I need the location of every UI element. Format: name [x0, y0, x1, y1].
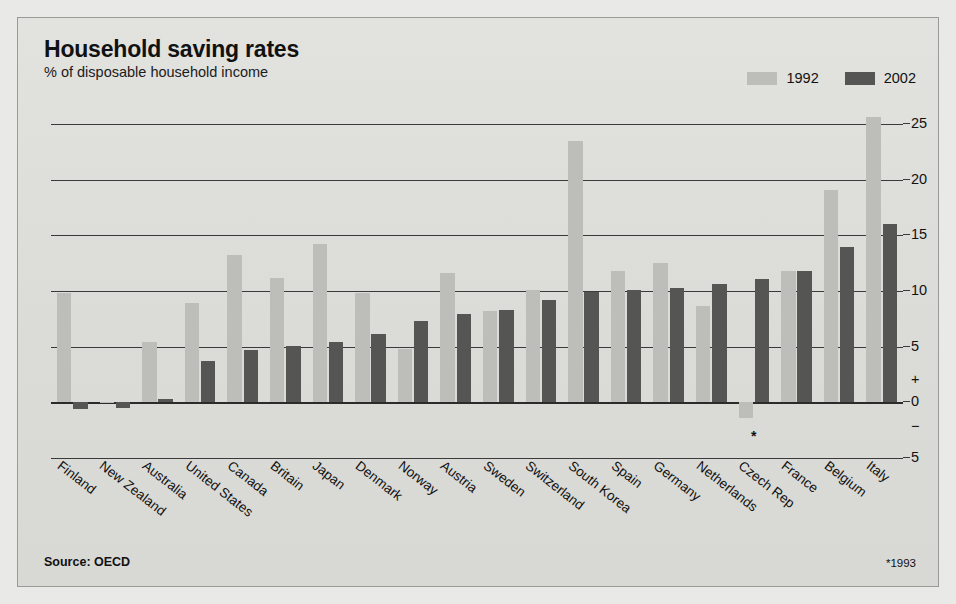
bar-1992-canada	[227, 255, 241, 402]
x-label-belgium: Belgium	[821, 458, 869, 500]
bar-group-czech-rep	[739, 113, 769, 458]
bar-1992-japan	[313, 244, 327, 402]
bar-group-france	[781, 113, 811, 458]
bar-2002-switzerland	[542, 300, 556, 402]
plot-area: 252015105+0−5 *	[51, 113, 903, 458]
bar-1992-australia	[142, 342, 156, 402]
bar-2002-new-zealand	[116, 402, 130, 408]
bar-1992-france	[781, 271, 795, 402]
bar-group-switzerland	[526, 113, 556, 458]
bar-group-canada	[227, 113, 257, 458]
bar-2002-japan	[329, 342, 343, 402]
bar-1992-south-korea	[568, 141, 582, 403]
y-tick-dash	[903, 234, 910, 235]
y-tick-dash	[903, 290, 910, 291]
bar-group-belgium	[824, 113, 854, 458]
bar-1992-austria	[440, 273, 454, 402]
chart-legend: 19922002	[747, 70, 916, 86]
y-tick-0: 0	[911, 393, 956, 409]
asterisk-annotation: *	[751, 428, 756, 444]
bar-2002-norway	[414, 321, 428, 402]
bar-1992-netherlands	[696, 306, 710, 403]
legend-label: 2002	[884, 70, 916, 86]
y-tick-+: +	[911, 371, 956, 387]
bar-group-britain	[270, 113, 300, 458]
x-label-italy: Italy	[864, 458, 893, 485]
y-tick-dash	[903, 179, 910, 180]
bar-2002-czech-rep	[755, 279, 769, 403]
bar-2002-britain	[286, 346, 300, 403]
source-label: Source: OECD	[44, 555, 130, 569]
footnote-label: *1993	[886, 557, 916, 569]
bar-group-norway	[398, 113, 428, 458]
x-label-britain: Britain	[268, 458, 307, 493]
bar-2002-sweden	[499, 310, 513, 402]
x-label-japan: Japan	[310, 458, 348, 492]
bar-1992-czech-rep	[739, 402, 753, 418]
x-label-spain: Spain	[608, 458, 644, 491]
y-tick-−: −	[911, 418, 956, 434]
y-tick-5: 5	[911, 338, 956, 354]
bar-1992-belgium	[824, 190, 838, 403]
bar-2002-south-korea	[584, 292, 598, 402]
bar-1992-finland	[57, 293, 71, 402]
y-tick-5: 5	[911, 449, 956, 465]
bar-1992-sweden	[483, 311, 497, 402]
bar-group-germany	[653, 113, 683, 458]
bar-2002-france	[797, 271, 811, 402]
legend-item-2002: 2002	[845, 70, 916, 86]
bar-2002-italy	[883, 224, 897, 402]
bar-1992-united-states	[185, 303, 199, 402]
legend-label: 1992	[786, 70, 818, 86]
bar-2002-austria	[457, 314, 471, 402]
page-subtitle: % of disposable household income	[44, 63, 299, 82]
bar-1992-new-zealand	[100, 402, 114, 403]
legend-item-1992: 1992	[747, 70, 818, 86]
y-tick-15: 15	[911, 226, 956, 242]
bar-2002-spain	[627, 290, 641, 402]
bar-group-japan	[313, 113, 343, 458]
bar-1992-switzerland	[526, 290, 540, 402]
y-tick-dash	[903, 401, 910, 402]
y-tick-10: 10	[911, 282, 956, 298]
bar-group-australia	[142, 113, 172, 458]
bar-1992-britain	[270, 278, 284, 403]
bar-2002-denmark	[371, 334, 385, 402]
bar-2002-germany	[670, 288, 684, 403]
bar-1992-germany	[653, 263, 667, 402]
x-label-denmark: Denmark	[353, 458, 405, 504]
y-tick-20: 20	[911, 171, 956, 187]
y-tick-dash	[903, 123, 910, 124]
bar-group-netherlands	[696, 113, 726, 458]
bar-group-denmark	[355, 113, 385, 458]
y-tick-25: 25	[911, 115, 956, 131]
bar-2002-netherlands	[712, 284, 726, 402]
bar-1992-norway	[398, 349, 412, 402]
x-label-finland: Finland	[55, 458, 99, 497]
bar-group-south-korea	[568, 113, 598, 458]
bar-2002-canada	[244, 350, 258, 402]
bar-1992-denmark	[355, 293, 369, 402]
x-label-austria: Austria	[438, 458, 480, 496]
bar-1992-spain	[611, 271, 625, 402]
bar-group-spain	[611, 113, 641, 458]
bar-2002-united-states	[201, 361, 215, 402]
bar-group-new-zealand	[100, 113, 130, 458]
bar-group-finland	[57, 113, 87, 458]
x-axis-labels: FinlandNew ZealandAustraliaUnited States…	[51, 458, 903, 568]
bar-series-container: *	[51, 113, 903, 458]
page-title: Household saving rates	[44, 36, 299, 62]
bar-group-italy	[866, 113, 896, 458]
bar-group-sweden	[483, 113, 513, 458]
bar-group-austria	[440, 113, 470, 458]
bar-1992-italy	[866, 117, 880, 402]
legend-swatch-2002	[845, 72, 875, 85]
y-tick-dash	[903, 346, 910, 347]
legend-swatch-1992	[747, 72, 777, 85]
bar-2002-finland	[73, 402, 87, 409]
bar-2002-australia	[158, 399, 172, 402]
bar-group-united-states	[185, 113, 215, 458]
bar-2002-belgium	[840, 247, 854, 403]
y-tick-dash	[903, 457, 910, 458]
chart-header: Household saving rates % of disposable h…	[44, 36, 299, 82]
